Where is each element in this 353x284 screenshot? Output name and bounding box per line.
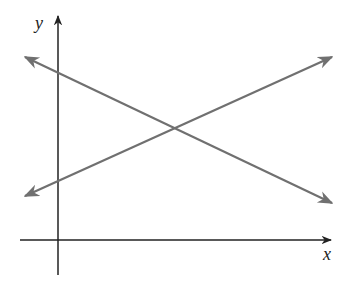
x-axis: x <box>20 240 331 264</box>
y-axis: y <box>33 13 58 275</box>
y-axis-label: y <box>33 13 43 33</box>
coordinate-plane-diagram: x y <box>0 0 353 284</box>
x-axis-label: x <box>322 244 331 264</box>
